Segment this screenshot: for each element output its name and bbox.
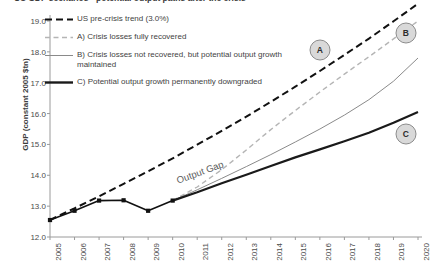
- solid-thin-gray-key: [44, 50, 74, 61]
- annotation-circle-a: A: [309, 40, 330, 61]
- legend-label: B) Crisis losses not recovered, but pote…: [77, 50, 309, 70]
- legend-item: A) Crisis losses fully recovered: [44, 32, 314, 43]
- data-point-marker: [146, 209, 150, 213]
- data-point-marker: [122, 198, 126, 202]
- legend-item: B) Crisis losses not recovered, but pote…: [44, 50, 314, 70]
- legend-label: US pre-crisis trend (3.0%): [77, 14, 169, 24]
- series-line-3: [173, 112, 418, 201]
- data-point-marker: [48, 218, 52, 222]
- series-line-4: [50, 200, 173, 220]
- annotation-circle-c: C: [395, 124, 416, 145]
- data-point-marker: [171, 198, 175, 202]
- data-point-marker: [72, 209, 76, 213]
- chart-legend: US pre-crisis trend (3.0%)A) Crisis loss…: [44, 14, 314, 95]
- legend-label: C) Potential output growth permanently d…: [77, 77, 262, 87]
- legend-label: A) Crisis losses fully recovered: [77, 32, 186, 42]
- data-point-marker: [97, 198, 101, 202]
- annotation-circle-b: B: [395, 23, 416, 44]
- chart-container: US GDP scenarios - potential output path…: [0, 0, 431, 272]
- solid-thick-black-key: [44, 77, 74, 88]
- dashed-gray-key: [44, 32, 74, 43]
- legend-item: C) Potential output growth permanently d…: [44, 77, 314, 88]
- dashed-black-key: [44, 14, 74, 25]
- legend-item: US pre-crisis trend (3.0%): [44, 14, 314, 25]
